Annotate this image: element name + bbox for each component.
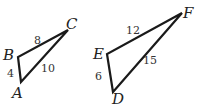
vertex-label-e: E: [92, 45, 104, 63]
side-label-ac: 10: [41, 62, 55, 75]
triangle-def-outline: [107, 13, 182, 92]
vertex-label-c: C: [66, 15, 78, 33]
diagram-canvas: B C A 4 8 10 E F D 6 12 15: [0, 0, 200, 107]
vertex-label-f: F: [182, 4, 194, 22]
triangle-def: E F D 6 12 15: [92, 4, 194, 107]
side-label-ef: 12: [126, 24, 140, 37]
triangle-abc: B C A 4 8 10: [2, 15, 78, 102]
side-label-df: 15: [143, 54, 157, 67]
vertex-label-d: D: [111, 90, 124, 107]
vertex-label-a: A: [10, 84, 23, 102]
side-label-ab: 4: [7, 67, 14, 80]
side-label-bc: 8: [34, 34, 41, 47]
vertex-label-b: B: [2, 46, 14, 64]
side-label-de: 6: [95, 70, 102, 83]
